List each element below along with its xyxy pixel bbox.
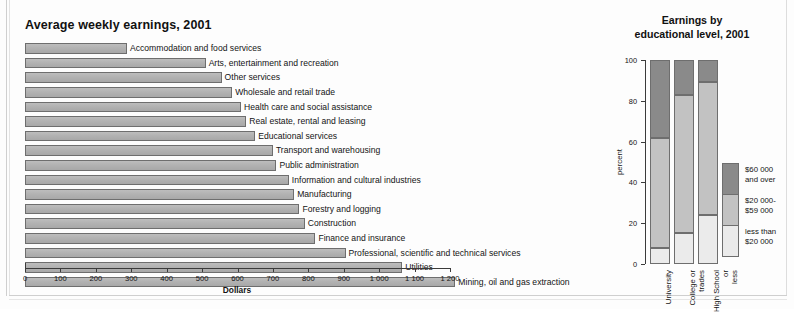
education-earnings-column-chart: Earnings by educational level, 2001 0204… <box>612 0 794 309</box>
bar-row: Public administration <box>25 159 495 172</box>
bar-row: Construction <box>25 217 495 230</box>
bar-chart-title: Average weekly earnings, 2001 <box>25 18 212 32</box>
bar-segment <box>25 102 241 113</box>
bar-segment <box>25 87 232 98</box>
y-tick-label: 40 <box>629 178 637 187</box>
legend-label-line2: and over <box>745 175 775 184</box>
stack-segment <box>650 248 670 264</box>
legend-label-line2: $20 000 <box>745 237 773 246</box>
y-tick-mark <box>641 264 645 265</box>
stack-segment <box>650 60 670 138</box>
y-tick-mark <box>641 223 645 224</box>
x-tick-mark <box>96 268 97 272</box>
bar-row: Health care and social assistance <box>25 100 495 113</box>
x-tick-mark <box>344 268 345 272</box>
legend-label-line1: less than <box>745 227 776 236</box>
bar-segment <box>25 160 276 171</box>
x-tick-label: 400 <box>160 274 173 283</box>
bar-category-label: Finance and insurance <box>318 234 405 243</box>
bar-row: Manufacturing <box>25 188 495 201</box>
bar-category-label: Public administration <box>279 161 358 170</box>
bar-segment <box>25 58 206 69</box>
x-tick-label: 200 <box>89 274 102 283</box>
bar-row: Wholesale and retail trade <box>25 86 495 99</box>
x-tick-label: 900 <box>337 274 350 283</box>
bar-row: Real estate, rental and leasing <box>25 115 495 128</box>
y-tick-mark <box>641 101 645 102</box>
bar-row: Forestry and logging <box>25 203 495 216</box>
stack-segment <box>674 60 694 95</box>
x-tick-label: 800 <box>302 274 315 283</box>
bar-row: Information and cultural industries <box>25 173 495 186</box>
bar-category-label: Transport and warehousing <box>276 146 380 155</box>
column-category-label: High Schoolorless <box>713 270 740 312</box>
bar-segment <box>25 145 273 156</box>
x-tick-mark <box>167 268 168 272</box>
bar-category-label: Accommodation and food services <box>130 44 261 53</box>
column-chart-title-line2: educational level, 2001 <box>635 28 750 40</box>
legend-swatch-20000-59000 <box>723 195 738 226</box>
bar-category-label: Construction <box>308 219 356 228</box>
bar-category-label: Professional, scientific and technical s… <box>349 249 521 258</box>
bar-category-label: Real estate, rental and leasing <box>249 117 365 126</box>
bar-category-label: Educational services <box>258 132 337 141</box>
y-tick-label: 80 <box>629 96 637 105</box>
bar-segment <box>25 233 315 244</box>
bar-segment <box>25 116 246 127</box>
stack-segment <box>650 138 670 248</box>
legend-label: $20 000-$59 000 <box>745 196 776 215</box>
column-y-axis-label: percent <box>615 149 624 175</box>
y-tick-label: 100 <box>625 56 637 65</box>
x-tick-mark <box>450 268 451 272</box>
x-tick-label: 100 <box>54 274 67 283</box>
column-stacks <box>650 60 718 264</box>
bar-category-label: Information and cultural industries <box>292 176 421 185</box>
stacked-column <box>674 60 694 264</box>
x-tick-label: 300 <box>125 274 138 283</box>
legend-swatch-less-than-20000 <box>723 226 738 256</box>
x-tick-label: 0 <box>23 274 27 283</box>
bar-row: Educational services <box>25 130 495 143</box>
x-tick-mark <box>379 268 380 272</box>
x-tick-label: 500 <box>196 274 209 283</box>
x-tick-mark <box>273 268 274 272</box>
stack-segment <box>698 82 718 215</box>
column-chart-plot-area: 020406080100 percent UniversityCollege o… <box>645 60 721 264</box>
weekly-earnings-bar-chart: Average weekly earnings, 2001 Accommodat… <box>0 0 612 309</box>
y-tick-label: 20 <box>629 219 637 228</box>
column-chart-title-line1: Earnings by <box>662 14 723 26</box>
column-y-axis-line <box>645 60 646 264</box>
x-tick-mark <box>131 268 132 272</box>
bar-rows: Accommodation and food servicesArts, ent… <box>25 42 495 290</box>
x-tick-mark <box>415 268 416 272</box>
bar-row: Arts, entertainment and recreation <box>25 57 495 70</box>
legend-swatch-60000-and-over <box>723 164 738 195</box>
legend-label: $60 000and over <box>745 165 775 184</box>
legend-label-line1: $20 000- <box>745 196 776 205</box>
x-tick-mark <box>308 268 309 272</box>
x-tick-label: 1 200 <box>440 274 459 283</box>
legend-label: less than$20 000 <box>745 227 776 246</box>
bar-segment <box>25 131 255 142</box>
bar-row: Transport and warehousing <box>25 144 495 157</box>
legend-label-line2: $59 000 <box>745 206 773 215</box>
stack-segment <box>674 95 694 234</box>
bar-segment <box>25 175 289 186</box>
x-tick-mark <box>202 268 203 272</box>
x-tick-mark <box>60 268 61 272</box>
bar-category-label: Forestry and logging <box>302 205 380 214</box>
y-tick-mark <box>641 142 645 143</box>
legend-label-line1: $60 000 <box>745 165 773 174</box>
bar-category-label: Wholesale and retail trade <box>235 88 335 97</box>
column-category-label: College ortrades <box>689 270 707 306</box>
bar-chart-plot-area: Accommodation and food servicesArts, ent… <box>25 42 495 268</box>
x-tick-label: 1 100 <box>405 274 424 283</box>
bar-x-axis-label: Dollars <box>223 285 251 295</box>
bar-segment <box>25 248 346 259</box>
legend-swatch-stack <box>722 163 739 257</box>
x-tick-label: 1 000 <box>370 274 389 283</box>
bar-row: Professional, scientific and technical s… <box>25 246 495 259</box>
y-tick-mark <box>641 182 645 183</box>
stacked-column <box>698 60 718 264</box>
bar-category-label: Manufacturing <box>297 190 351 199</box>
